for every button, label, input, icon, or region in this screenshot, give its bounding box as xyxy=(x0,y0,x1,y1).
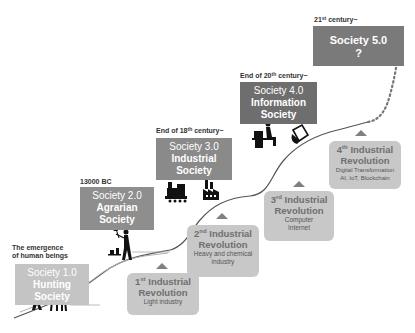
society-name-line2: Society xyxy=(15,291,89,303)
revolution-1-marker-icon xyxy=(156,263,168,269)
revolution-2-marker-icon xyxy=(216,213,228,219)
era-label-society4: End of 20th century~ xyxy=(240,72,308,80)
smartphone-icon xyxy=(292,125,308,144)
revolution-title: 3rd Industrial xyxy=(264,194,334,205)
society-1-box: Society 1.0 Hunting Society xyxy=(15,264,89,305)
society-number: Society 5.0 xyxy=(313,34,404,47)
society-5-box: Society 5.0 ? xyxy=(313,26,404,66)
society-number: Society 4.0 xyxy=(240,85,317,97)
society-name-line2: Society xyxy=(156,165,232,177)
revolution-title-line2: Revolution xyxy=(187,239,259,250)
society-number: Society 1.0 xyxy=(15,267,89,279)
future-dotted-curve xyxy=(368,60,397,122)
era-label-line1: The emergence xyxy=(12,244,68,252)
society-name-line2: Society xyxy=(80,214,154,226)
revolution-description-line2: Internet xyxy=(264,224,334,232)
revolution-title-line2: Revolution xyxy=(127,287,199,298)
revolution-description-line1: Computer xyxy=(264,216,334,224)
farmer-icon xyxy=(108,228,132,260)
revolution-3-marker-icon xyxy=(293,181,305,187)
computer-user-icon xyxy=(252,122,276,149)
society-name-line1: Hunting xyxy=(15,279,89,291)
revolution-description-line1: Heavy and chemical xyxy=(187,250,259,258)
society-3-box: Society 3.0 Industrial Society xyxy=(156,138,232,180)
society-number: Society 2.0 xyxy=(80,190,154,202)
society-2-box: Society 2.0 Agrarian Society xyxy=(80,187,154,230)
revolution-description-line2: AI, IoT, Blockchain xyxy=(329,174,401,182)
revolution-title: 1st Industrial xyxy=(127,276,199,287)
society-4-box: Society 4.0 Information Society xyxy=(240,82,317,124)
revolution-2-box: 2nd Industrial Revolution Heavy and chem… xyxy=(187,225,259,277)
era-label-line2: of human beings xyxy=(12,252,68,260)
revolution-description-line2: industry xyxy=(187,258,259,266)
era-label-society2: 13000 BC xyxy=(80,178,112,186)
era-label-society1: The emergence of human beings xyxy=(12,244,68,260)
society-name-line2: Society xyxy=(240,109,317,121)
society-name-unknown: ? xyxy=(313,47,404,60)
era-label-society3: End of 18th century~ xyxy=(156,127,224,135)
revolution-title: 4th Industrial xyxy=(329,144,401,155)
society-name-line1: Information xyxy=(240,97,317,109)
society-number: Society 3.0 xyxy=(156,141,232,153)
revolution-3-box: 3rd Industrial Revolution Computer Inter… xyxy=(264,191,334,241)
revolution-description-line1: Digital Transformation xyxy=(329,166,401,174)
revolution-4-box: 4th Industrial Revolution Digital Transf… xyxy=(329,141,401,189)
era-label-society5: 21st century~ xyxy=(314,16,358,24)
revolution-title-line2: Revolution xyxy=(264,205,334,216)
revolution-4-marker-icon xyxy=(355,130,367,136)
revolution-title: 2nd Industrial xyxy=(187,228,259,239)
revolution-1-box: 1st Industrial Revolution Light industry xyxy=(127,273,199,315)
society-name-line1: Industrial xyxy=(156,153,232,165)
revolution-title-line2: Revolution xyxy=(329,155,401,166)
revolution-description: Light industry xyxy=(127,298,199,306)
train-factory-icon xyxy=(165,180,219,203)
society-name-line1: Agrarian xyxy=(80,202,154,214)
